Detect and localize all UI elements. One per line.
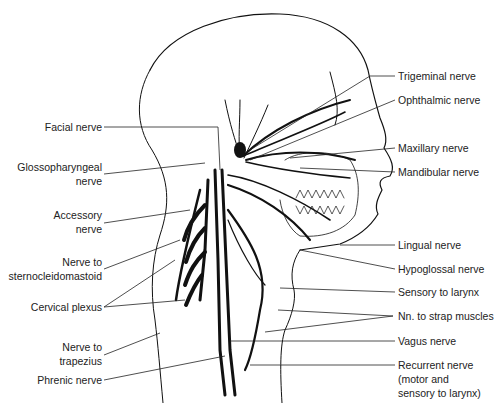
label-nerve-to-sternocleidomastoid: Nerve tosternocleidomastoid (9, 255, 102, 283)
jaw (280, 153, 358, 237)
label-cervical-plexus: Cervical plexus (31, 300, 102, 314)
front-neck (281, 250, 300, 403)
label-mandibular-nerve: Mandibular nerve (398, 165, 479, 179)
label-sensory-to-larynx: Sensory to larynx (398, 285, 479, 299)
label-accessory-nerve: Accessorynerve (54, 208, 102, 236)
label-phrenic-nerve: Phrenic nerve (37, 373, 102, 387)
head-outline (150, 14, 392, 250)
label-vagus-nerve: Vagus nerve (398, 334, 456, 348)
label-ophthalmic-nerve: Ophthalmic nerve (398, 93, 480, 107)
label-hypoglossal-nerve: Hypoglossal nerve (398, 262, 484, 276)
label-nerve-to-trapezius: Nerve totrapezius (59, 340, 102, 368)
label-facial-nerve: Facial nerve (45, 120, 102, 134)
back-of-head (139, 70, 166, 403)
label-recurrent-nerve: Recurrent nerve(motor andsensory to lary… (398, 358, 481, 400)
label-maxillary-nerve: Maxillary nerve (398, 141, 469, 155)
label-nn-to-strap-muscles: Nn. to strap muscles (398, 309, 494, 323)
label-lingual-nerve: Lingual nerve (398, 238, 461, 252)
teeth-upper (296, 190, 344, 198)
label-trigeminal-nerve: Trigeminal nerve (398, 69, 476, 83)
label-glossopharyngeal-nerve: Glossopharyngealnerve (17, 160, 102, 188)
